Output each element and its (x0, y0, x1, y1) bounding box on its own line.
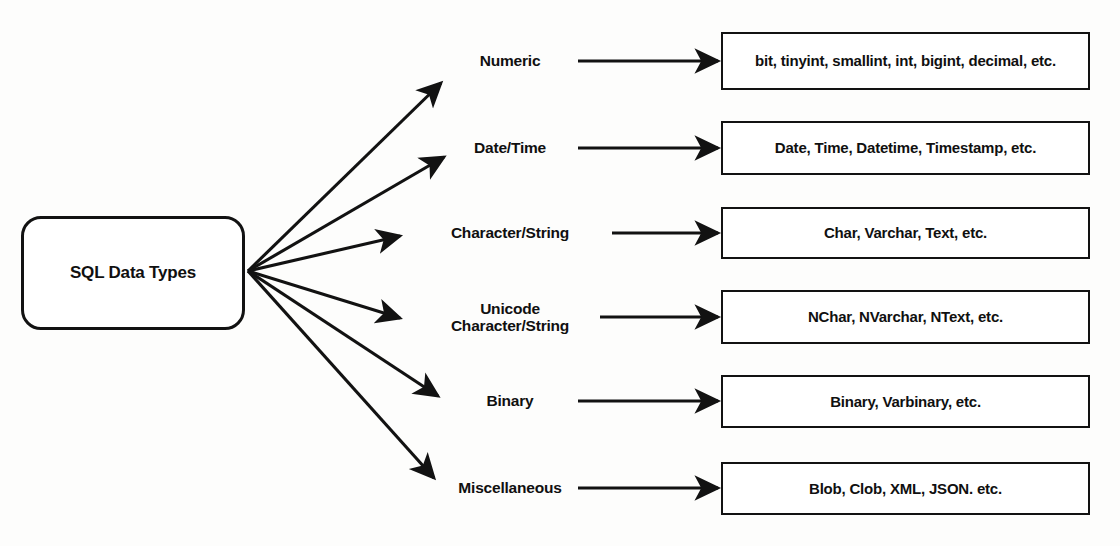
value-box-numeric[interactable]: bit, tinyint, smallint, int, bigint, dec… (721, 32, 1090, 90)
value-box-character-string-text: Char, Varchar, Text, etc. (824, 223, 987, 243)
category-label-character-string[interactable]: Character/String (410, 224, 610, 241)
value-box-character-string[interactable]: Char, Varchar, Text, etc. (721, 207, 1090, 259)
value-box-numeric-text: bit, tinyint, smallint, int, bigint, dec… (755, 51, 1056, 71)
fanout-line-numeric (248, 83, 441, 271)
category-label-unicode-character-string[interactable]: Unicode Character/String (410, 300, 610, 335)
root-node-sql-data-types[interactable]: SQL Data Types (21, 216, 245, 330)
value-box-binary[interactable]: Binary, Varbinary, etc. (721, 375, 1090, 428)
fanout-line-unicode-character-string (248, 271, 400, 318)
category-label-datetime[interactable]: Date/Time (410, 139, 610, 156)
value-box-unicode-character-string-text: NChar, NVarchar, NText, etc. (808, 307, 1003, 327)
diagram-canvas: SQL Data Types Numeric Date/Time Charact… (0, 0, 1120, 546)
value-box-datetime[interactable]: Date, Time, Datetime, Timestamp, etc. (721, 121, 1090, 175)
value-box-datetime-text: Date, Time, Datetime, Timestamp, etc. (775, 138, 1036, 158)
fanout-line-datetime (248, 157, 444, 271)
category-label-numeric[interactable]: Numeric (410, 52, 610, 69)
fanout-line-miscellaneous (248, 271, 434, 478)
value-box-binary-text: Binary, Varbinary, etc. (830, 392, 981, 412)
root-node-label: SQL Data Types (70, 263, 196, 283)
row-connectors (578, 61, 718, 488)
fanout-line-character-string (248, 236, 400, 271)
value-box-unicode-character-string[interactable]: NChar, NVarchar, NText, etc. (721, 290, 1090, 344)
value-box-miscellaneous-text: Blob, Clob, XML, JSON. etc. (809, 479, 1002, 499)
category-label-miscellaneous[interactable]: Miscellaneous (410, 479, 610, 496)
category-label-binary[interactable]: Binary (410, 392, 610, 409)
value-box-miscellaneous[interactable]: Blob, Clob, XML, JSON. etc. (721, 462, 1090, 515)
